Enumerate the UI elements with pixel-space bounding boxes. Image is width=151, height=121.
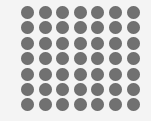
grid-dot	[91, 21, 104, 34]
grid-dot	[21, 68, 34, 81]
grid-dot	[91, 68, 104, 81]
grid-dot	[91, 6, 104, 19]
grid-dot	[109, 37, 122, 50]
grid-dot	[109, 68, 122, 81]
grid-dot	[127, 98, 140, 111]
dot-grid	[21, 6, 139, 112]
grid-dot	[127, 83, 140, 96]
grid-dot	[39, 52, 52, 65]
grid-dot	[21, 6, 34, 19]
grid-dot	[91, 52, 104, 65]
grid-dot	[74, 52, 87, 65]
grid-dot	[21, 98, 34, 111]
grid-dot	[91, 83, 104, 96]
grid-dot	[39, 83, 52, 96]
grid-dot	[21, 37, 34, 50]
grid-dot	[56, 21, 69, 34]
grid-dot	[74, 37, 87, 50]
grid-dot	[56, 68, 69, 81]
grid-dot	[91, 98, 104, 111]
grid-dot	[39, 37, 52, 50]
grid-dot	[74, 83, 87, 96]
grid-dot	[109, 98, 122, 111]
grid-dot	[56, 98, 69, 111]
grid-dot	[127, 68, 140, 81]
grid-dot	[39, 98, 52, 111]
grid-dot	[39, 6, 52, 19]
grid-dot	[74, 98, 87, 111]
grid-dot	[127, 52, 140, 65]
grid-dot	[74, 21, 87, 34]
grid-dot	[21, 52, 34, 65]
grid-dot	[127, 6, 140, 19]
grid-dot	[56, 37, 69, 50]
grid-dot	[91, 37, 104, 50]
grid-dot	[56, 52, 69, 65]
grid-dot	[127, 37, 140, 50]
grid-dot	[39, 68, 52, 81]
grid-dot	[56, 6, 69, 19]
grid-dot	[127, 21, 140, 34]
grid-dot	[21, 83, 34, 96]
grid-dot	[109, 21, 122, 34]
grid-dot	[74, 68, 87, 81]
grid-dot	[109, 52, 122, 65]
grid-dot	[21, 21, 34, 34]
grid-dot	[109, 6, 122, 19]
grid-dot	[109, 83, 122, 96]
grid-dot	[56, 83, 69, 96]
grid-dot	[74, 6, 87, 19]
grid-dot	[39, 21, 52, 34]
